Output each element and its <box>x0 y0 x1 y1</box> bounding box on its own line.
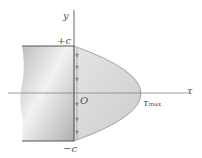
tau-axis-label: τ <box>187 86 193 96</box>
beam-section <box>20 46 74 141</box>
top-label: +c <box>57 36 71 46</box>
y-axis-label: y <box>63 11 69 21</box>
shear-diagram <box>0 0 202 158</box>
bottom-label: −c <box>63 144 77 154</box>
origin-label: O <box>80 96 88 106</box>
parabolic-stress-profile <box>74 46 141 141</box>
tau-max-label: τmax <box>143 98 161 108</box>
